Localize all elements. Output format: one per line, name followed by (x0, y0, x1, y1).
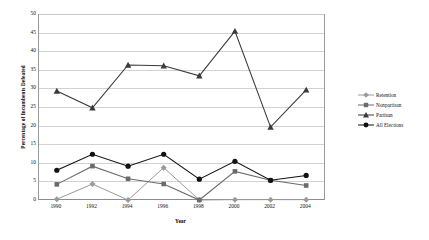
legend-item-all-elections[interactable]: All Elections (357, 120, 429, 130)
legend-square-icon (357, 100, 375, 110)
x-tick-label: 1998 (178, 203, 218, 209)
y-tick-label: 40 (22, 48, 36, 53)
x-axis-title: Year (38, 218, 323, 224)
legend-circle-icon (357, 120, 375, 130)
legend-item-retention[interactable]: Retention (357, 90, 429, 100)
x-tick-label: 1994 (107, 203, 147, 209)
data-point (268, 178, 273, 183)
legend-item-partisan[interactable]: Partisan (357, 110, 429, 120)
data-point (232, 28, 238, 34)
x-tick-label: 2000 (214, 203, 254, 209)
x-tick-label: 2002 (250, 203, 290, 209)
data-point (90, 152, 95, 157)
y-tick-label: 15 (22, 141, 36, 146)
y-tick-label: 30 (22, 86, 36, 91)
data-point (126, 176, 131, 181)
series-partisan (54, 28, 310, 130)
data-point (303, 197, 309, 203)
y-tick-label: 20 (22, 123, 36, 128)
y-tick-label: 45 (22, 30, 36, 35)
legend-item-nonpartisan[interactable]: Nonpartisan (357, 100, 429, 110)
legend-label: Partisan (375, 112, 393, 118)
data-point (90, 164, 95, 169)
x-axis-tick-labels: 19901992199419961998200020022004 (38, 203, 323, 219)
legend-label: Nonpartisan (375, 102, 401, 108)
data-point (54, 88, 60, 94)
legend-label: All Elections (375, 122, 403, 128)
legend-diamond-icon (357, 90, 375, 100)
data-point (232, 197, 238, 203)
data-point (54, 196, 60, 202)
data-point (197, 198, 202, 203)
data-point (303, 87, 309, 93)
x-tick-label: 1992 (71, 203, 111, 209)
y-tick-label: 35 (22, 67, 36, 72)
data-point (233, 169, 238, 174)
legend-label: Retention (375, 92, 396, 98)
line-chart: Percentage of Incumbents Defeated 051015… (0, 0, 429, 240)
y-axis-tick-labels: 05101520253035404550 (22, 14, 36, 200)
y-tick-label: 10 (22, 160, 36, 165)
data-point (125, 164, 130, 169)
x-tick-label: 2004 (285, 203, 325, 209)
y-tick-label: 50 (22, 11, 36, 16)
y-tick-label: 0 (22, 197, 36, 202)
x-tick-label: 1990 (36, 203, 76, 209)
data-point (232, 159, 237, 164)
data-point (54, 168, 59, 173)
data-point (268, 197, 274, 203)
series-layer (39, 14, 324, 200)
y-tick-label: 25 (22, 104, 36, 109)
series-retention (54, 165, 309, 203)
data-point (161, 182, 166, 187)
y-tick-label: 5 (22, 179, 36, 184)
data-point (55, 182, 60, 187)
data-point (161, 152, 166, 157)
data-point (89, 181, 95, 187)
plot-area (38, 14, 325, 200)
legend-triangle-icon (357, 110, 375, 120)
legend: RetentionNonpartisanPartisanAll Election… (357, 90, 429, 130)
series-line (57, 31, 306, 127)
data-point (197, 177, 202, 182)
x-tick-label: 1996 (143, 203, 183, 209)
data-point (304, 173, 309, 178)
data-point (304, 183, 309, 188)
